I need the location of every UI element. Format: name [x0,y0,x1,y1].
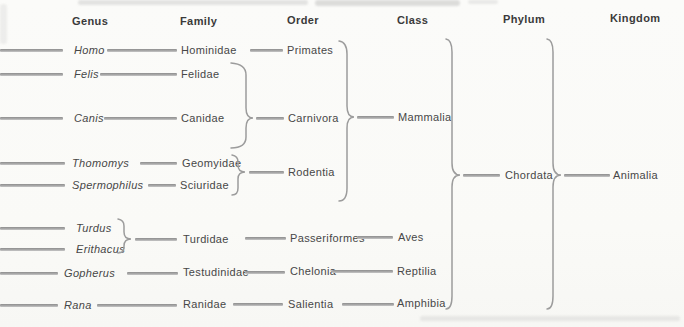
genus-label-homo: Homo [74,43,105,57]
connector-line [342,303,394,306]
connector-line [0,227,65,230]
connector-line [100,73,177,76]
carnivora-brace [230,62,256,150]
connector-line [148,184,176,187]
connector-line [0,49,63,52]
chordata-brace [445,38,461,310]
connector-line [249,171,284,174]
family-label-sciuridae: Sciuridae [180,178,229,192]
class-label-amphibia: Amphibia [397,296,446,310]
connector-line [357,116,394,119]
scan-artifact [420,316,680,321]
kingdom-label-animalia: Animalia [613,168,658,182]
genus-label-rana: Rana [64,298,92,312]
class-label-reptilia: Reptilia [397,264,437,278]
class-label-mammalia: Mammalia [398,110,452,124]
connector-line [107,49,177,52]
genus-label-thomomys: Thomomys [72,156,129,170]
taxonomy-diagram: Genus Family Order Class Phylum Kingdom … [0,0,684,327]
connector-line [256,117,284,120]
connector-line [104,117,177,120]
order-label-salientia: Salientia [288,297,333,311]
scan-artifact [0,4,7,44]
scan-artifact [315,0,460,6]
connector-line [463,174,500,177]
family-label-ranidae: Ranidae [183,297,226,311]
family-label-canidae: Canidae [181,111,224,125]
order-label-chelonia: Chelonia [290,264,336,278]
turdidae-brace [117,218,133,254]
order-label-rodentia: Rodentia [288,165,335,179]
order-label-primates: Primates [287,43,333,57]
order-label-carnivora: Carnivora [288,111,339,125]
connector-line [245,237,286,240]
family-label-testudinidae: Testudinidae [183,265,249,279]
connector-line [0,184,65,187]
connector-line [0,304,58,307]
genus-label-felis: Felis [74,67,99,81]
rodentia-brace [231,154,247,196]
genus-label-canis: Canis [74,111,104,125]
genus-label-turdus: Turdus [76,221,112,235]
column-header-family: Family [180,14,217,28]
scan-artifact [78,0,308,5]
connector-line [0,248,65,251]
family-label-turdidae: Turdidae [183,232,229,246]
connector-line [0,162,65,165]
column-header-phylum: Phylum [503,12,545,26]
scan-artifact [468,0,498,4]
column-header-kingdom: Kingdom [610,11,660,25]
connector-line [245,271,285,274]
connector-line [564,174,610,177]
connector-line [135,238,177,241]
connector-line [357,236,393,239]
connector-line [0,272,58,275]
column-header-genus: Genus [72,14,108,28]
connector-line [140,162,177,165]
order-label-passeriformes: Passeriformes [290,231,365,245]
class-label-aves: Aves [398,230,424,244]
genus-label-gopherus: Gopherus [64,266,115,280]
column-header-order: Order [287,13,319,27]
family-label-hominidae: Hominidae [181,43,237,57]
connector-line [0,73,63,76]
connector-line [97,304,177,307]
column-header-class: Class [397,13,428,27]
mammalia-brace [338,40,356,202]
connector-line [127,272,178,275]
connector-line [0,117,63,120]
animalia-brace [546,38,562,310]
connector-line [233,303,283,306]
connector-line [332,270,393,273]
connector-line [250,49,283,52]
genus-label-spermophilus: Spermophilus [72,178,143,192]
family-label-felidae: Felidae [181,67,220,81]
